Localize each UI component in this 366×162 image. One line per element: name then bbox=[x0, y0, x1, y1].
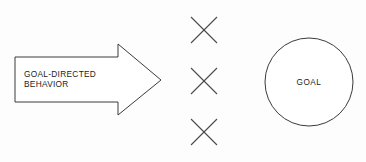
diagram-canvas: GOAL-DIRECTED BEHAVIOR GOAL bbox=[0, 0, 366, 162]
arrow-label-line-2: BEHAVIOR bbox=[24, 79, 69, 89]
barrier-mark-1 bbox=[191, 17, 217, 43]
goal-directed-behavior-arrow: GOAL-DIRECTED BEHAVIOR bbox=[15, 44, 161, 115]
barrier-marks bbox=[191, 17, 217, 145]
diagram-svg: GOAL-DIRECTED BEHAVIOR GOAL bbox=[0, 0, 366, 162]
barrier-mark-3 bbox=[191, 119, 217, 145]
arrow-label-line-1: GOAL-DIRECTED bbox=[24, 69, 96, 79]
goal-label: GOAL bbox=[297, 78, 322, 87]
goal-circle: GOAL bbox=[265, 38, 353, 126]
barrier-mark-2 bbox=[191, 68, 217, 94]
